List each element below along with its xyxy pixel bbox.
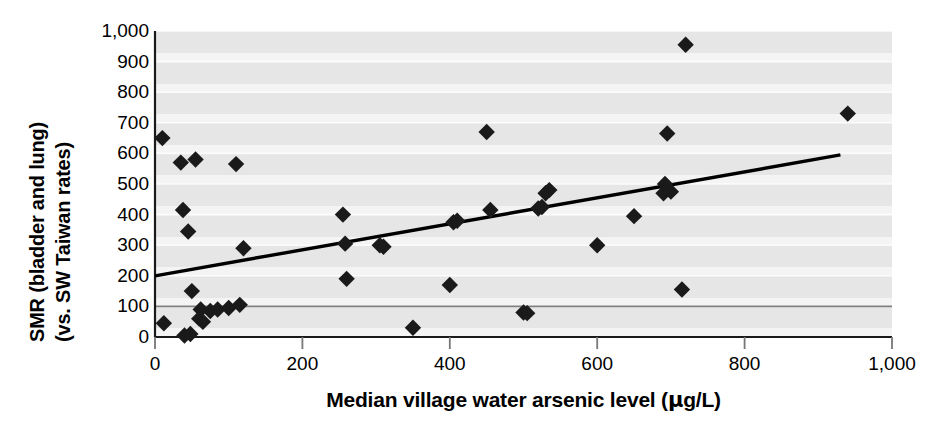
data-markers xyxy=(154,37,856,344)
x-axis-title-prefix: Median village water arsenic level ( xyxy=(326,388,668,411)
y-tick-label-600: 600 xyxy=(83,142,149,164)
y-tick-label-1000: 1,000 xyxy=(83,20,149,42)
y-tick-label-0: 0 xyxy=(83,326,149,348)
x-axis-title-suffix: g/L) xyxy=(683,388,721,411)
data-point xyxy=(338,271,354,287)
y-tick-label-200: 200 xyxy=(83,265,149,287)
y-tick-label-700: 700 xyxy=(83,112,149,134)
data-point xyxy=(840,105,856,121)
gridlines xyxy=(155,31,892,306)
data-point xyxy=(175,202,191,218)
data-point xyxy=(478,124,494,140)
data-point xyxy=(337,235,353,251)
x-tick-label-1000: 1,000 xyxy=(852,353,932,375)
data-point xyxy=(405,320,421,336)
data-point xyxy=(156,315,172,331)
y-tick-label-400: 400 xyxy=(83,204,149,226)
axis-ticks xyxy=(155,337,892,349)
x-tick-label-600: 600 xyxy=(557,353,637,375)
data-point xyxy=(442,277,458,293)
x-tick-label-200: 200 xyxy=(262,353,342,375)
x-tick-label-0: 0 xyxy=(115,353,195,375)
data-point xyxy=(659,125,675,141)
data-point xyxy=(184,283,200,299)
scatter-plot-figure: SMR (bladder and lung) (vs. SW Taiwan ra… xyxy=(0,0,945,442)
data-point xyxy=(235,240,251,256)
data-point xyxy=(154,130,170,146)
y-tick-label-500: 500 xyxy=(83,173,149,195)
data-point xyxy=(626,208,642,224)
y-tick-label-100: 100 xyxy=(83,295,149,317)
data-point xyxy=(674,281,690,297)
data-point xyxy=(228,156,244,172)
y-tick-label-900: 900 xyxy=(83,51,149,73)
x-axis-title: Median village water arsenic level (μg/L… xyxy=(155,388,892,412)
data-point xyxy=(677,37,693,53)
x-axis-title-mu: μ xyxy=(668,388,683,412)
y-tick-label-800: 800 xyxy=(83,81,149,103)
data-point xyxy=(173,154,189,170)
x-tick-label-800: 800 xyxy=(705,353,785,375)
data-point xyxy=(335,206,351,222)
data-point xyxy=(180,223,196,239)
data-point xyxy=(589,237,605,253)
x-tick-label-400: 400 xyxy=(410,353,490,375)
y-tick-label-300: 300 xyxy=(83,234,149,256)
